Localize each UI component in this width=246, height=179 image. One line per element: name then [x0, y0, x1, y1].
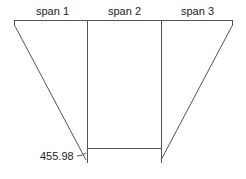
right-diagonal — [161, 26, 232, 160]
span-3-label: span 3 — [181, 5, 214, 17]
span-diagram — [0, 0, 246, 179]
left-diagonal — [15, 26, 86, 160]
annotation-leader — [77, 153, 86, 156]
span-1-label: span 1 — [36, 5, 69, 17]
span-2-label: span 2 — [108, 5, 141, 17]
annotation-value: 455.98 — [40, 150, 74, 162]
